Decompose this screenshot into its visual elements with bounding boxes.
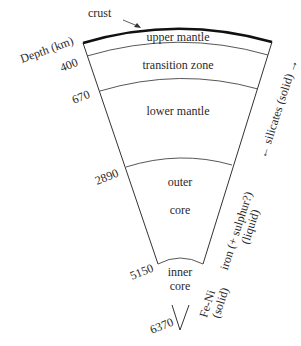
layer-outer-core-line1: outer — [168, 175, 193, 189]
boundary-400 — [87, 42, 268, 56]
layer-outer-core-line2: core — [170, 203, 191, 217]
boundary-670 — [100, 78, 258, 91]
boundary-2890 — [126, 158, 232, 167]
boundary-5150 — [158, 258, 203, 264]
crust-arrow-icon — [134, 23, 141, 28]
crust-label: crust — [88, 6, 112, 20]
layer-lower-mantle: lower mantle — [147, 104, 210, 118]
layer-inner-core-line2: core — [170, 279, 191, 293]
depth-2890: 2890 — [93, 166, 120, 188]
layer-transition-zone: transition zone — [143, 58, 214, 72]
layer-inner-core-line1: inner — [168, 265, 193, 279]
earth-structure-diagram: crust Depth (km) upper mantle transition… — [0, 0, 301, 346]
depth-6370: 6370 — [148, 315, 175, 337]
depth-400: 400 — [58, 55, 80, 75]
depth-5150: 5150 — [128, 261, 155, 283]
depth-670: 670 — [70, 87, 92, 107]
sector-left-edge — [83, 43, 158, 264]
layer-upper-mantle: upper mantle — [147, 30, 210, 44]
